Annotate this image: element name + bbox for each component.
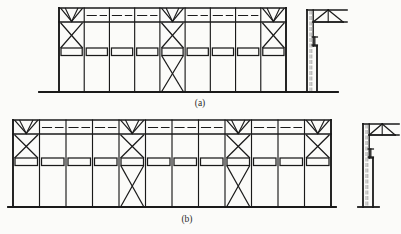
wall-girt-panel [238, 48, 259, 56]
panel-a-caption: (a) [195, 98, 206, 109]
wall-girt-panel [280, 158, 303, 166]
wall-girt-panel [162, 48, 183, 56]
figure-container: (a) (b) [0, 0, 401, 234]
panel-b-caption: (b) [181, 214, 192, 225]
wall-girt-panel [263, 48, 284, 56]
wall-girt-panel [86, 48, 107, 56]
wall-girt-panel [111, 48, 132, 56]
wall-girt-panel [307, 158, 330, 166]
wall-girt-panel [137, 48, 158, 56]
wall-girt-panel [95, 158, 118, 166]
wall-girt-panel [148, 158, 171, 166]
wall-girt-panel [187, 48, 208, 56]
braced-frame-elevation-figure: (a) (b) [0, 0, 401, 234]
wall-girt-panel [201, 158, 224, 166]
wall-girt-panel [121, 158, 144, 166]
wall-girt-panel [15, 158, 38, 166]
wall-girt-panel [254, 158, 277, 166]
wall-girt-panel [174, 158, 197, 166]
wall-girt-panel [212, 48, 233, 56]
wall-girt-panel [227, 158, 250, 166]
wall-girt-panel [68, 158, 91, 166]
canvas-background [0, 0, 401, 234]
wall-girt-panel [42, 158, 65, 166]
wall-girt-panel [61, 48, 82, 56]
